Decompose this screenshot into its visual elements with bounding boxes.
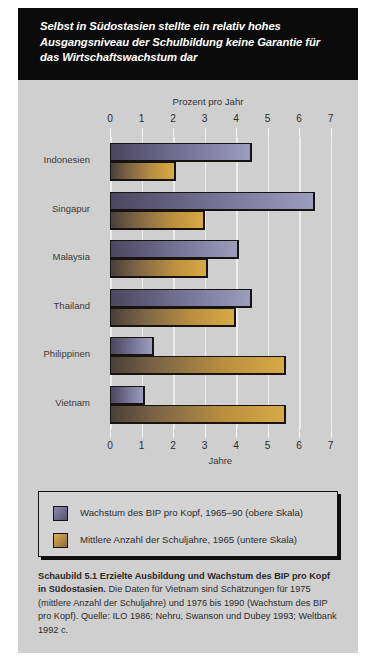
bottom-axis-title: Jahre [209, 455, 232, 466]
bottom-tick-mark-1 [142, 428, 143, 438]
bar-group: Malaysia [18, 240, 358, 280]
category-label: Vietnam [0, 397, 90, 408]
bottom-tick-label-2: 2 [165, 440, 181, 451]
top-axis-title: Prozent pro Jahr [18, 96, 358, 107]
bar-schooling-years [110, 211, 205, 230]
bottom-tick-label-0: 0 [102, 440, 118, 451]
bar-schooling-years [110, 162, 176, 181]
bottom-tick-mark-2 [173, 428, 174, 438]
bottom-tick-label-4: 4 [228, 440, 244, 451]
plot-area: Prozent pro Jahr 01234567 IndonesienSing… [18, 80, 358, 480]
bar-gdp-growth [110, 192, 315, 211]
bottom-tick-label-5: 5 [260, 440, 276, 451]
category-label: Singapur [0, 203, 90, 214]
bar-gdp-growth [110, 143, 252, 162]
bar-gdp-growth [110, 386, 145, 405]
top-tick-label-5: 5 [260, 113, 276, 124]
bar-schooling-years [110, 356, 286, 375]
legend-label: Mittlere Anzahl der Schuljahre, 1965 (un… [80, 534, 297, 545]
bottom-tick-label-1: 1 [134, 440, 150, 451]
figure-title: Selbst in Südostasien stellte ein relati… [40, 19, 340, 66]
bar-schooling-years [110, 308, 236, 327]
bar-group: Philippinen [18, 337, 358, 377]
legend-swatch-purple [53, 506, 68, 521]
top-tick-label-1: 1 [134, 113, 150, 124]
top-tick-label-3: 3 [197, 113, 213, 124]
figure-caption: Schaubild 5.1 Erzielte Ausbildung und Wa… [38, 570, 340, 637]
bar-schooling-years [110, 405, 286, 424]
bar-group: Vietnam [18, 386, 358, 426]
legend-swatch-gold [53, 533, 68, 548]
bottom-tick-mark-6 [299, 428, 300, 438]
title-banner: Selbst in Südostasien stellte ein relati… [18, 8, 358, 80]
category-label: Indonesien [0, 154, 90, 165]
category-label: Philippinen [0, 348, 90, 359]
bottom-tick-mark-7 [331, 428, 332, 438]
top-tick-label-6: 6 [291, 113, 307, 124]
bottom-tick-mark-3 [205, 428, 206, 438]
top-tick-label-7: 7 [323, 113, 339, 124]
bar-group: Thailand [18, 289, 358, 329]
bottom-tick-mark-5 [268, 428, 269, 438]
bottom-tick-mark-4 [236, 428, 237, 438]
bottom-tick-label-6: 6 [291, 440, 307, 451]
legend: Wachstum des BIP pro Kopf, 1965–90 (ober… [38, 491, 338, 557]
top-tick-label-2: 2 [165, 113, 181, 124]
figure-panel: Selbst in Südostasien stellte ein relati… [18, 8, 358, 653]
bar-gdp-growth [110, 337, 154, 356]
bar-schooling-years [110, 259, 208, 278]
bar-group: Indonesien [18, 143, 358, 183]
bottom-tick-label-7: 7 [323, 440, 339, 451]
bottom-tick-mark-0 [110, 428, 111, 438]
category-label: Thailand [0, 300, 90, 311]
top-tick-label-4: 4 [228, 113, 244, 124]
bar-gdp-growth [110, 240, 239, 259]
bar-gdp-growth [110, 289, 252, 308]
category-label: Malaysia [0, 251, 90, 262]
legend-label: Wachstum des BIP pro Kopf, 1965–90 (ober… [80, 507, 303, 518]
bottom-tick-label-3: 3 [197, 440, 213, 451]
top-tick-label-0: 0 [102, 113, 118, 124]
bar-group: Singapur [18, 192, 358, 232]
